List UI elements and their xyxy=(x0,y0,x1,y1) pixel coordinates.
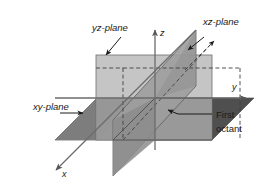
xy-plane-label-text: xy-plane xyxy=(32,101,69,112)
xz-plane-label: xz-plane xyxy=(202,16,239,27)
xz-plane-label-text: xz-plane xyxy=(202,16,239,27)
y-axis-label: y xyxy=(231,82,237,92)
yz-plane-label-text: yz-plane xyxy=(91,22,128,33)
x-axis-label: x xyxy=(61,169,67,179)
yz-plane-leader xyxy=(106,37,121,55)
xy-plane-label: xy-plane xyxy=(32,101,69,112)
yz-plane-label: yz-plane xyxy=(91,22,128,33)
first-octant-label-line1: First xyxy=(216,109,235,120)
figure-canvas: y z x xy-plane yz-plane xz-plane First o… xyxy=(0,0,269,189)
coordinate-planes-diagram: y z x xy-plane yz-plane xz-plane First o… xyxy=(0,0,269,189)
z-axis-label: z xyxy=(159,28,165,38)
first-octant-label-line2: octant xyxy=(216,123,242,134)
